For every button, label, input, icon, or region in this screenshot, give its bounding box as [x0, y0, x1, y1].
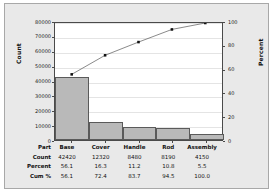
- table-row-label: Percent: [11, 162, 51, 171]
- pareto-chart-figure: Count Percent 80000700006000050000400003…: [4, 3, 269, 189]
- table-cell: 83.7: [118, 172, 152, 181]
- line-marker: [171, 28, 174, 31]
- table-cell: Rod: [151, 143, 185, 152]
- table-row: PartBaseCoverHandleRodAssembly: [5, 143, 268, 152]
- y-axis-right-tick-mark: [223, 117, 225, 118]
- y-axis-right-tick-mark: [223, 22, 225, 23]
- table-cell: 100.0: [185, 172, 219, 181]
- y-axis-right-tick-mark: [223, 93, 225, 94]
- y-axis-left-tick-label: 70000: [27, 34, 51, 39]
- table-cell: Handle: [118, 143, 152, 152]
- y-axis-left-tick-label: 50000: [27, 64, 51, 69]
- y-axis-left-tick-label: 40000: [27, 79, 51, 84]
- y-axis-right-tick-label: 80: [228, 43, 248, 48]
- y-axis-left-tick-label: 80000: [27, 20, 51, 25]
- y-axis-right-title: Percent: [257, 38, 264, 66]
- y-axis-left-tick-label: 20000: [27, 109, 51, 114]
- y-axis-right-tick-label: 100: [228, 20, 248, 25]
- cumulative-line-series: [55, 23, 222, 140]
- table-cell: Base: [50, 143, 84, 152]
- line-marker: [137, 41, 140, 44]
- y-axis-right-tick-mark: [223, 141, 225, 142]
- table-cell: 16.3: [84, 162, 118, 171]
- table-cell: 12320: [84, 153, 118, 162]
- y-axis-left-tick-label: 60000: [27, 49, 51, 54]
- line-marker: [70, 73, 73, 76]
- line-marker: [204, 23, 207, 24]
- table-row-label: Part: [11, 143, 51, 152]
- line-marker: [104, 54, 107, 57]
- table-row: Count4242012320848081904150: [5, 153, 268, 162]
- table-cell: 8480: [118, 153, 152, 162]
- y-axis-right-tick-mark: [223, 70, 225, 71]
- table-cell: 94.5: [151, 172, 185, 181]
- table-cell: 42420: [50, 153, 84, 162]
- table-cell: 10.8: [151, 162, 185, 171]
- table-cell: 11.2: [118, 162, 152, 171]
- table-cell: 72.4: [84, 172, 118, 181]
- table-row-label: Count: [11, 153, 51, 162]
- plot-area: [54, 22, 223, 141]
- pareto-data-table: PartBaseCoverHandleRodAssemblyCount42420…: [5, 143, 268, 188]
- table-cell: 56.1: [50, 172, 84, 181]
- y-axis-left-tick-label: 30000: [27, 94, 51, 99]
- y-axis-right-tick-label: 20: [228, 115, 248, 120]
- table-row: Percent56.116.311.210.85.5: [5, 162, 268, 171]
- y-axis-left-tick-label: 10000: [27, 124, 51, 129]
- cumulative-line: [72, 23, 206, 74]
- table-row-label: Cum %: [11, 172, 51, 181]
- y-axis-right-tick-label: 60: [228, 67, 248, 72]
- y-axis-left-title: Count: [15, 43, 22, 64]
- y-axis-right-tick-label: 40: [228, 91, 248, 96]
- y-axis-right-tick-mark: [223, 46, 225, 47]
- table-cell: 8190: [151, 153, 185, 162]
- table-cell: 56.1: [50, 162, 84, 171]
- table-row: Cum %56.172.483.794.5100.0: [5, 172, 268, 181]
- table-cell: Cover: [84, 143, 118, 152]
- table-cell: 4150: [185, 153, 219, 162]
- y-axis-left-tick-mark: [52, 141, 54, 142]
- table-cell: Assembly: [185, 143, 219, 152]
- table-cell: 5.5: [185, 162, 219, 171]
